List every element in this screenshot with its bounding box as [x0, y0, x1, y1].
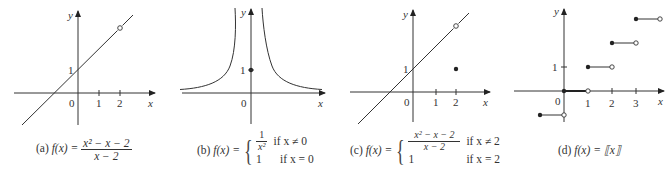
y-tick-label-1: 1	[68, 64, 74, 76]
tick-label-0: 0	[69, 97, 75, 109]
caption-lhs: f(x) =	[52, 142, 79, 154]
tick-label-1: 1	[585, 97, 591, 109]
y-axis-label: y	[402, 8, 408, 20]
case-value: 1	[256, 153, 274, 165]
tick-label-0: 0	[241, 97, 247, 109]
brace: {	[244, 135, 253, 165]
open-point	[118, 26, 123, 31]
fraction: x² − x − 2 x − 2	[81, 137, 131, 162]
y-tick-label-1: 1	[403, 63, 409, 75]
closed-point	[454, 67, 458, 71]
y-tick-label-1: 1	[240, 64, 246, 76]
caption-lhs: f(x) =	[213, 144, 240, 156]
caption-rhs: ⟦x⟧	[604, 144, 621, 156]
caption-label: (b)	[197, 144, 210, 156]
case-row: x² − x − 2 x − 2 if x ≠ 2	[408, 132, 500, 150]
case-condition: if x = 0	[280, 153, 314, 165]
tick-label-2: 2	[117, 97, 123, 109]
case-condition: if x ≠ 2	[466, 135, 499, 147]
caption-label: (d)	[558, 144, 571, 156]
graph-b: y x 0 1	[180, 6, 325, 124]
caption-lhs: f(x) =	[574, 144, 601, 156]
case-row: 1 if x = 0	[256, 150, 314, 168]
x-axis-label: x	[657, 95, 663, 107]
brace: {	[396, 135, 405, 165]
case-value: 1	[408, 153, 460, 165]
graph-a: y x 0 1 2 1	[14, 9, 155, 125]
open-point	[634, 41, 638, 45]
y-axis-label: y	[67, 9, 73, 21]
y-axis-label: y	[240, 6, 246, 18]
x-axis-label: x	[147, 97, 153, 109]
tick-label-2: 2	[609, 97, 615, 109]
function-line	[22, 31, 118, 126]
function-line	[358, 29, 454, 125]
tick-label-3: 3	[633, 97, 639, 109]
tick-label-1: 1	[433, 96, 439, 108]
caption-b: (b) f(x) = { 1 x² if x ≠ 0 1 if x = 0	[197, 132, 314, 168]
case-value: x² − x − 2 x − 2	[408, 130, 460, 152]
closed-point	[562, 89, 566, 93]
closed-point	[634, 17, 638, 21]
caption-label: (c)	[350, 144, 363, 156]
tick-label-0: 0	[404, 96, 410, 108]
closed-point	[610, 41, 614, 45]
numerator: x² − x − 2	[81, 137, 131, 150]
curve-right	[262, 8, 322, 90]
caption-label: (a)	[36, 142, 49, 154]
denominator: x²	[256, 142, 267, 153]
graph-c: y x 0 1 2 1	[350, 8, 490, 124]
caption-c: (c) f(x) = { x² − x − 2 x − 2 if x ≠ 2 1…	[350, 132, 500, 168]
open-point	[562, 113, 566, 117]
caption-lhs: f(x) =	[366, 144, 393, 156]
open-point	[658, 17, 662, 21]
closed-point	[586, 65, 590, 69]
denominator: x − 2	[81, 150, 131, 162]
tick-label-0: 0	[555, 95, 561, 107]
numerator: 1	[256, 130, 267, 142]
open-point	[610, 65, 614, 69]
function-line-cont	[123, 15, 134, 26]
caption-a: (a) f(x) = x² − x − 2 x − 2	[36, 137, 132, 162]
y-tick-label-1: 1	[552, 61, 558, 73]
case-row: 1 if x = 2	[408, 150, 500, 168]
tick-label-1: 1	[96, 97, 102, 109]
denominator: x − 2	[408, 142, 460, 153]
open-point	[586, 89, 590, 93]
case-condition: if x ≠ 0	[273, 135, 306, 147]
closed-point	[538, 113, 542, 117]
curve-left	[180, 8, 235, 90]
open-point	[454, 24, 459, 29]
case-row: 1 x² if x ≠ 0	[256, 132, 314, 150]
case-value: 1 x²	[256, 130, 267, 152]
x-axis-label: x	[482, 96, 488, 108]
case-condition: if x = 2	[466, 153, 500, 165]
cases: x² − x − 2 x − 2 if x ≠ 2 1 if x = 2	[408, 132, 500, 168]
tick-label-2: 2	[453, 96, 459, 108]
graph-d: y x 0 1 2 3 1	[514, 5, 664, 122]
caption-d: (d) f(x) = ⟦x⟧	[558, 143, 621, 157]
y-axis-label: y	[553, 5, 559, 17]
x-axis-label: x	[317, 97, 323, 109]
cases: 1 x² if x ≠ 0 1 if x = 0	[256, 132, 314, 168]
function-line-cont	[459, 13, 470, 24]
numerator: x² − x − 2	[408, 130, 460, 142]
